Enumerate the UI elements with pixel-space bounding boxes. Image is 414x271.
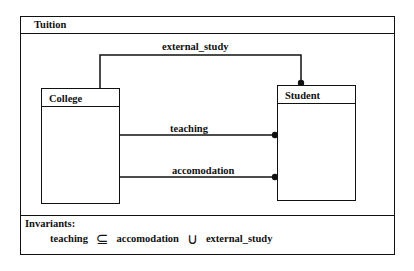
union-icon: ∪ — [187, 234, 198, 244]
class-student[interactable]: Student — [277, 85, 356, 201]
class-name: Student — [278, 86, 355, 104]
association-label-accomodation: accomodation — [172, 165, 234, 176]
subset-icon: ⊆ — [96, 234, 109, 244]
invariants-divider — [20, 215, 395, 216]
association-label-external-study: external_study — [162, 41, 229, 52]
invariant-term1: accomodation — [117, 233, 179, 244]
class-college[interactable]: College — [41, 88, 120, 204]
invariant-expression: teaching ⊆ accomodation ∪ external_study — [50, 233, 272, 244]
invariant-lhs: teaching — [50, 233, 88, 244]
association-label-teaching: teaching — [170, 123, 208, 134]
invariant-term2: external_study — [206, 233, 273, 244]
invariants-heading: Invariants: — [25, 218, 75, 229]
class-name: College — [42, 89, 119, 107]
